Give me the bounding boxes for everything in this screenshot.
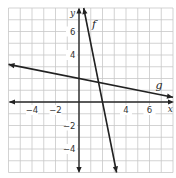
y-tick-label: −4 xyxy=(63,144,76,154)
x-tick-label: −4 xyxy=(26,105,39,115)
x-tick-label: −2 xyxy=(49,105,62,115)
line-g-label: g xyxy=(155,79,162,92)
y-tick-label: 4 xyxy=(70,50,75,60)
y-axis-label: y xyxy=(69,8,76,18)
coordinate-plane: −4−24664−2−4 x y f g xyxy=(0,0,176,178)
x-tick-label: 6 xyxy=(147,105,152,115)
grid-lines xyxy=(9,8,174,173)
x-axis-label: x xyxy=(168,104,173,114)
x-axis-left-arrow-icon xyxy=(9,99,15,104)
y-tick-label: −2 xyxy=(63,121,76,131)
y-tick-label: 6 xyxy=(70,27,75,37)
x-tick-label: 4 xyxy=(123,105,128,115)
